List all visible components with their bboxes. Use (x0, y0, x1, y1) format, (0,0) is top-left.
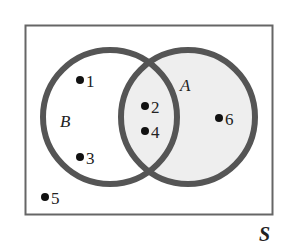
element-label-5: 5 (51, 189, 60, 208)
set-label-b: B (60, 112, 71, 131)
element-label-1: 1 (86, 72, 95, 91)
element-label-6: 6 (225, 110, 234, 129)
set-label-a: A (179, 76, 191, 95)
element-dot-4 (141, 127, 149, 135)
element-label-4: 4 (151, 123, 160, 142)
venn-diagram: 1 3 2 4 6 5 B A S (0, 0, 291, 244)
element-dot-2 (141, 102, 149, 110)
element-dot-6 (215, 114, 223, 122)
element-label-3: 3 (86, 149, 95, 168)
element-dot-1 (76, 76, 84, 84)
element-dot-3 (76, 153, 84, 161)
element-label-2: 2 (151, 98, 160, 117)
element-dot-5 (41, 193, 49, 201)
universe-label: S (259, 223, 270, 244)
